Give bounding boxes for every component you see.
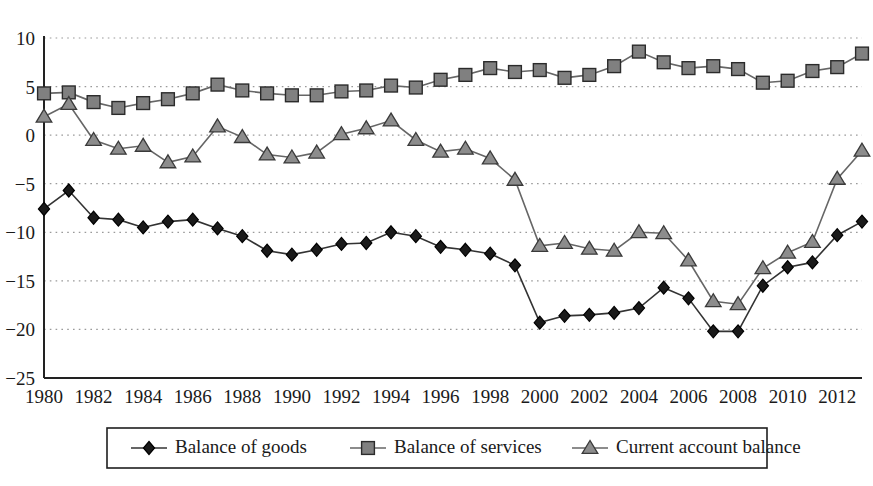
data-point-marker xyxy=(262,244,273,257)
data-point-marker xyxy=(87,96,100,109)
data-point-marker xyxy=(410,230,421,243)
data-point-marker xyxy=(755,261,771,274)
data-point-marker xyxy=(609,306,620,319)
series-balance-of-services xyxy=(38,45,869,114)
data-point-marker xyxy=(210,119,226,132)
data-point-marker xyxy=(409,81,422,94)
data-point-marker xyxy=(509,259,520,272)
legend-item-label: Balance of goods xyxy=(175,436,307,457)
data-point-marker xyxy=(311,243,322,256)
data-point-marker xyxy=(310,89,323,102)
x-tick-label: 1998 xyxy=(471,386,509,407)
data-point-marker xyxy=(782,261,793,274)
data-point-marker xyxy=(162,93,175,106)
gridlines xyxy=(44,38,862,329)
data-point-marker xyxy=(854,143,870,156)
data-point-marker xyxy=(608,60,621,73)
data-point-marker xyxy=(485,247,496,260)
x-tick-label: 2010 xyxy=(769,386,807,407)
data-point-marker xyxy=(361,236,372,249)
data-point-marker xyxy=(705,294,721,307)
data-point-marker xyxy=(286,248,297,261)
data-point-marker xyxy=(583,69,596,82)
data-point-marker xyxy=(335,85,348,98)
data-point-marker xyxy=(656,226,672,239)
data-point-marker xyxy=(112,102,125,115)
data-point-marker xyxy=(360,84,373,97)
data-point-marker xyxy=(113,213,124,226)
data-point-marker xyxy=(732,325,743,338)
x-tick-label: 2008 xyxy=(719,386,757,407)
data-point-marker xyxy=(138,221,149,234)
data-point-marker xyxy=(408,133,424,146)
data-point-marker xyxy=(135,138,151,151)
data-point-marker xyxy=(781,74,794,87)
data-point-marker xyxy=(509,66,522,79)
data-point-marker xyxy=(186,87,199,100)
data-point-marker xyxy=(657,56,670,69)
series-current-account-balance xyxy=(36,97,870,310)
data-point-marker xyxy=(237,230,248,243)
data-point-marker xyxy=(38,202,49,215)
data-point-marker xyxy=(383,113,399,126)
data-point-marker xyxy=(633,45,646,58)
x-tick-label: 1992 xyxy=(322,386,360,407)
y-tick-label: 10 xyxy=(16,28,35,49)
chart-container: 1050−5−10−15−20−25 198019821984198619881… xyxy=(0,0,873,486)
data-point-marker xyxy=(236,84,249,97)
data-point-marker xyxy=(732,63,745,76)
x-tick-label: 1994 xyxy=(372,386,411,407)
legend-item-label: Balance of services xyxy=(394,436,542,457)
x-tick-label: 1986 xyxy=(174,386,212,407)
data-point-marker xyxy=(707,60,720,73)
data-point-marker xyxy=(482,151,498,164)
y-tick-label: −15 xyxy=(5,271,35,292)
x-axis-tick-labels: 1980198219841986198819901992199419961998… xyxy=(25,386,856,407)
data-point-marker xyxy=(458,141,474,154)
x-tick-label: 2002 xyxy=(570,386,608,407)
x-tick-label: 2000 xyxy=(521,386,559,407)
x-tick-label: 2006 xyxy=(669,386,707,407)
x-tick-label: 1982 xyxy=(75,386,113,407)
data-point-marker xyxy=(259,147,275,160)
data-point-marker xyxy=(658,281,669,294)
x-tick-label: 1996 xyxy=(422,386,460,407)
data-point-marker xyxy=(557,235,573,248)
data-point-marker xyxy=(633,302,644,315)
data-point-marker xyxy=(459,69,472,82)
chart-legend: Balance of goodsBalance of servicesCurre… xyxy=(107,428,801,468)
data-point-marker xyxy=(435,240,446,253)
data-point-marker xyxy=(756,76,769,89)
data-point-marker xyxy=(261,87,274,100)
data-point-marker xyxy=(460,243,471,256)
y-tick-label: −20 xyxy=(5,319,35,340)
data-point-marker xyxy=(309,145,325,158)
x-tick-label: 1990 xyxy=(273,386,311,407)
data-point-marker xyxy=(385,79,398,92)
data-point-marker xyxy=(682,62,695,75)
y-tick-label: −5 xyxy=(15,174,35,195)
data-point-marker xyxy=(534,316,545,329)
data-point-marker xyxy=(484,62,497,75)
data-point-marker xyxy=(187,213,198,226)
y-tick-label: −10 xyxy=(5,222,35,243)
data-point-marker xyxy=(856,47,869,60)
y-axis-tick-labels: 1050−5−10−15−20−25 xyxy=(5,28,35,389)
y-tick-label: 5 xyxy=(26,77,36,98)
line-chart: 1050−5−10−15−20−25 198019821984198619881… xyxy=(0,0,873,486)
x-tick-label: 1980 xyxy=(25,386,63,407)
data-point-marker xyxy=(38,87,51,100)
data-point-marker xyxy=(385,226,396,239)
data-point-marker xyxy=(558,71,571,84)
x-tick-label: 2004 xyxy=(620,386,659,407)
data-point-marker xyxy=(631,225,647,238)
data-point-marker xyxy=(434,73,447,86)
data-point-marker xyxy=(235,130,251,143)
data-point-marker xyxy=(780,245,796,258)
x-tick-label: 1984 xyxy=(124,386,163,407)
data-point-marker xyxy=(86,133,102,146)
data-point-marker xyxy=(137,97,150,110)
data-point-marker xyxy=(211,78,224,91)
data-point-marker xyxy=(162,215,173,228)
series-line xyxy=(44,104,862,304)
